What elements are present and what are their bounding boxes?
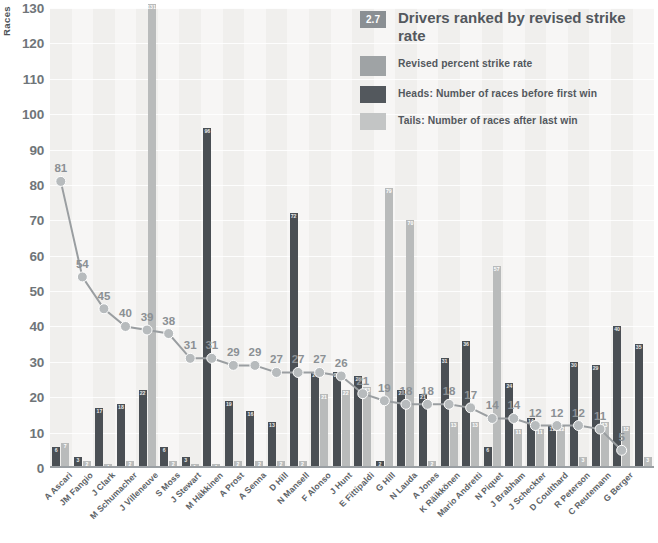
x-axis-labels: A AscariJM FangioJ ClarkM SchumacherJ Vi…: [50, 470, 654, 543]
line-value-label: 21: [356, 375, 369, 387]
bar-heads: 96: [203, 128, 211, 468]
bar-value-label: 14: [528, 419, 534, 424]
bar-heads: 6: [160, 447, 168, 468]
bar-heads: 19: [225, 401, 233, 468]
bar-heads: 36: [462, 341, 470, 468]
bar-heads: 27: [333, 372, 341, 468]
legend-swatch-strike-rate: [360, 56, 386, 76]
legend-title-row: 2.7 Drivers ranked by revised strike rat…: [360, 10, 648, 46]
line-value-label: 26: [335, 357, 348, 369]
bar-value-label: 22: [140, 391, 146, 396]
line-value-label: 14: [507, 399, 520, 411]
bar-tails: 13: [601, 422, 609, 468]
bar-value-label: 24: [506, 384, 512, 389]
bar-group: 62: [158, 447, 180, 468]
legend-label-strike-rate: Revised percent strike rate: [398, 55, 532, 70]
bar-value-label: 70: [408, 221, 414, 226]
bar-value-label: 16: [248, 412, 254, 417]
bar-value-label: 12: [550, 427, 556, 432]
bar-value-label: 40: [614, 327, 620, 332]
bar-tails: 11: [514, 429, 522, 468]
bar-heads: 13: [268, 422, 276, 468]
legend-item-strike-rate: Revised percent strike rate: [360, 55, 648, 76]
bar-tails: 23: [363, 387, 371, 468]
bar-group: 132: [266, 422, 288, 468]
bar-value-label: 30: [571, 363, 577, 368]
bar-value-label: 79: [386, 189, 392, 194]
bar-value-label: 3: [582, 458, 585, 463]
bar-tails: 79: [385, 188, 393, 468]
bar-group: 657: [481, 266, 503, 468]
bar-heads: 18: [117, 404, 125, 468]
bar-value-label: 36: [463, 342, 469, 347]
line-value-label: 38: [162, 315, 175, 327]
line-value-label: 27: [292, 353, 305, 365]
bar-heads: 12: [548, 426, 556, 468]
bar-heads: 16: [246, 411, 254, 468]
bar-value-label: 131: [147, 5, 156, 10]
chart-title: Drivers ranked by revised strike rate: [398, 9, 648, 46]
bar-heads: 22: [397, 390, 405, 468]
bar-group: 2623: [352, 376, 374, 468]
bar-value-label: 11: [537, 430, 542, 435]
bar-value-label: 27: [312, 373, 318, 378]
line-value-label: 19: [378, 382, 391, 394]
line-value-label: 14: [486, 399, 499, 411]
line-value-label: 18: [400, 385, 413, 397]
line-value-label: 12: [551, 407, 564, 419]
line-value-label: 27: [313, 353, 326, 365]
legend-label-tails: Tails: Number of races after last win: [398, 112, 578, 127]
bar-value-label: 35: [636, 345, 642, 350]
bar-heads: 26: [354, 376, 362, 468]
y-axis-tick: 10: [8, 425, 44, 440]
bar-value-label: 11: [516, 430, 521, 435]
bar-heads: 31: [441, 358, 449, 468]
bar-tails: 11: [536, 429, 544, 468]
bar-tails: 7: [61, 443, 69, 468]
bar-group: 353: [632, 344, 654, 468]
bar-value-label: 3: [76, 458, 79, 463]
bar-tails: 57: [493, 266, 501, 468]
bar-value-label: 22: [343, 391, 349, 396]
bar-value-label: 29: [593, 366, 599, 371]
bar-tails: 131: [148, 4, 156, 468]
legend-swatch-tails: [360, 113, 386, 130]
legend-swatch-heads: [360, 86, 386, 103]
bar-value-label: 13: [602, 423, 608, 428]
bar-group: 1212: [546, 426, 568, 468]
bar-value-label: 23: [364, 388, 370, 393]
y-axis-tick: 30: [8, 354, 44, 369]
legend-item-heads: Heads: Number of races before first win: [360, 85, 648, 103]
line-value-label: 11: [594, 410, 606, 422]
y-axis-tick: 80: [8, 177, 44, 192]
bar-value-label: 13: [451, 423, 457, 428]
line-value-label: 31: [205, 339, 218, 351]
y-axis-tick: 90: [8, 142, 44, 157]
bar-value-label: 72: [291, 214, 297, 219]
legend-item-tails: Tails: Number of races after last win: [360, 112, 648, 130]
y-axis-tick: 0: [8, 461, 44, 476]
bar-tails: 22: [342, 390, 350, 468]
line-value-label: 54: [76, 258, 89, 270]
bar-group: 2270: [395, 220, 417, 468]
bar-value-label: 96: [204, 129, 210, 134]
y-axis-tick: 60: [8, 248, 44, 263]
bar-value-label: 57: [494, 267, 500, 272]
y-axis-tick: 70: [8, 213, 44, 228]
line-value-label: 45: [98, 290, 111, 302]
bar-value-label: 6: [163, 448, 166, 453]
line-value-label: 12: [529, 407, 542, 419]
bar-group: 3613: [460, 341, 482, 468]
bar-group: 2411: [503, 383, 525, 468]
bar-group: 2722: [330, 372, 352, 468]
line-value-label: 27: [270, 353, 283, 365]
y-axis-tick: 110: [8, 71, 44, 86]
y-axis-tick: 40: [8, 319, 44, 334]
bar-group: 192: [223, 401, 245, 468]
bar-value-label: 13: [472, 423, 478, 428]
bar-group: 162: [244, 411, 266, 468]
bar-value-label: 19: [226, 402, 232, 407]
bar-value-label: 6: [486, 448, 489, 453]
bar-value-label: 27: [334, 373, 340, 378]
chart-number-badge: 2.7: [360, 11, 386, 28]
